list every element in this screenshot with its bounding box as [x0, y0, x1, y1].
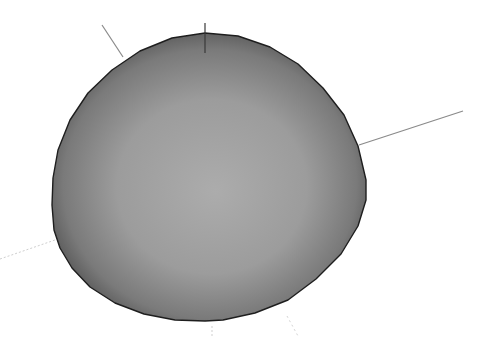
green-axis-line — [102, 25, 123, 57]
3d-viewport[interactable] — [0, 0, 482, 347]
red-axis-line — [359, 111, 463, 145]
sphere-model[interactable] — [52, 33, 366, 321]
